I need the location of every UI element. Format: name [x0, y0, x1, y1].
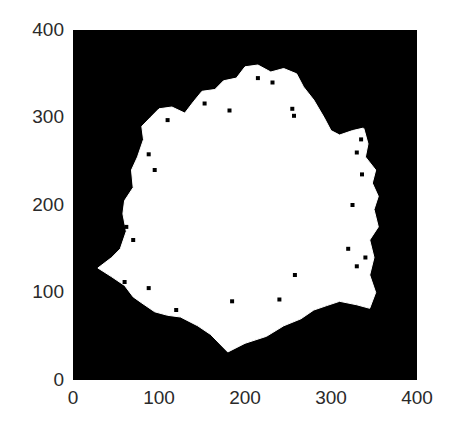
speckle [153, 168, 157, 172]
speckle [359, 137, 363, 141]
speckle [174, 308, 178, 312]
speckle [147, 286, 151, 290]
speckle [166, 118, 170, 122]
speckle [124, 225, 128, 229]
binary-image-blob [73, 30, 417, 380]
plot-area [73, 30, 417, 380]
speckle [131, 238, 135, 242]
speckle [228, 109, 232, 113]
speckle [351, 203, 355, 207]
speckle [355, 151, 359, 155]
speckle [363, 124, 367, 128]
speckle [355, 264, 359, 268]
speckle [105, 282, 109, 286]
speckle [363, 256, 367, 260]
speckle [346, 247, 350, 251]
speckle [147, 152, 151, 156]
y-tick-200: 200 [4, 195, 64, 214]
speckle [127, 295, 131, 299]
speckle [277, 298, 281, 302]
x-tick-200: 200 [215, 388, 275, 407]
y-tick-400: 400 [4, 20, 64, 39]
chart-figure: 400 300 200 100 0 0 100 200 300 400 [0, 0, 452, 427]
speckle [203, 102, 207, 106]
speckle [360, 172, 364, 176]
speckle [290, 107, 294, 111]
speckle [256, 76, 260, 80]
speckle [292, 114, 296, 118]
speckle [230, 299, 234, 303]
x-tick-300: 300 [301, 388, 361, 407]
white-blob-region [98, 65, 378, 352]
x-tick-0: 0 [43, 388, 103, 407]
speckle [123, 280, 127, 284]
x-tick-100: 100 [129, 388, 189, 407]
speckle [271, 81, 275, 85]
y-tick-100: 100 [4, 282, 64, 301]
x-tick-400: 400 [387, 388, 447, 407]
y-tick-0: 0 [4, 370, 64, 389]
y-tick-300: 300 [4, 107, 64, 126]
speckle [293, 273, 297, 277]
